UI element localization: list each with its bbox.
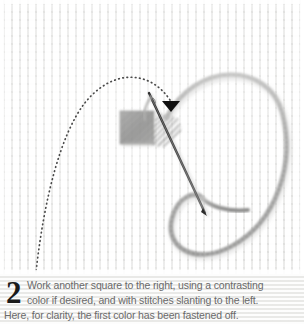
step-number: 2	[6, 277, 21, 308]
caption-text: Work another square to the right, using …	[27, 278, 302, 308]
caption-line-1: Work another square to the right, using …	[27, 278, 302, 293]
caption-block: 2 Work another square to the right, usin…	[0, 274, 304, 324]
caption-line-3: Here, for clarity, the first color has b…	[4, 308, 302, 322]
photo-inner-frame	[0, 0, 304, 274]
illustration-canvas	[0, 0, 304, 274]
instruction-figure: 2 Work another square to the right, usin…	[0, 0, 304, 324]
caption-line-2: color if desired, and with stitches slan…	[27, 293, 302, 308]
